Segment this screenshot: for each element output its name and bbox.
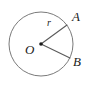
point-label-a: A [72, 10, 80, 23]
radius-label-r: r [47, 18, 51, 28]
radius-line-oa [41, 25, 67, 44]
center-label-o: O [25, 43, 34, 56]
center-dot [39, 42, 43, 46]
geometry-figure: A B O r [0, 0, 93, 88]
radius-line-ob [41, 44, 70, 58]
point-label-b: B [73, 55, 81, 68]
